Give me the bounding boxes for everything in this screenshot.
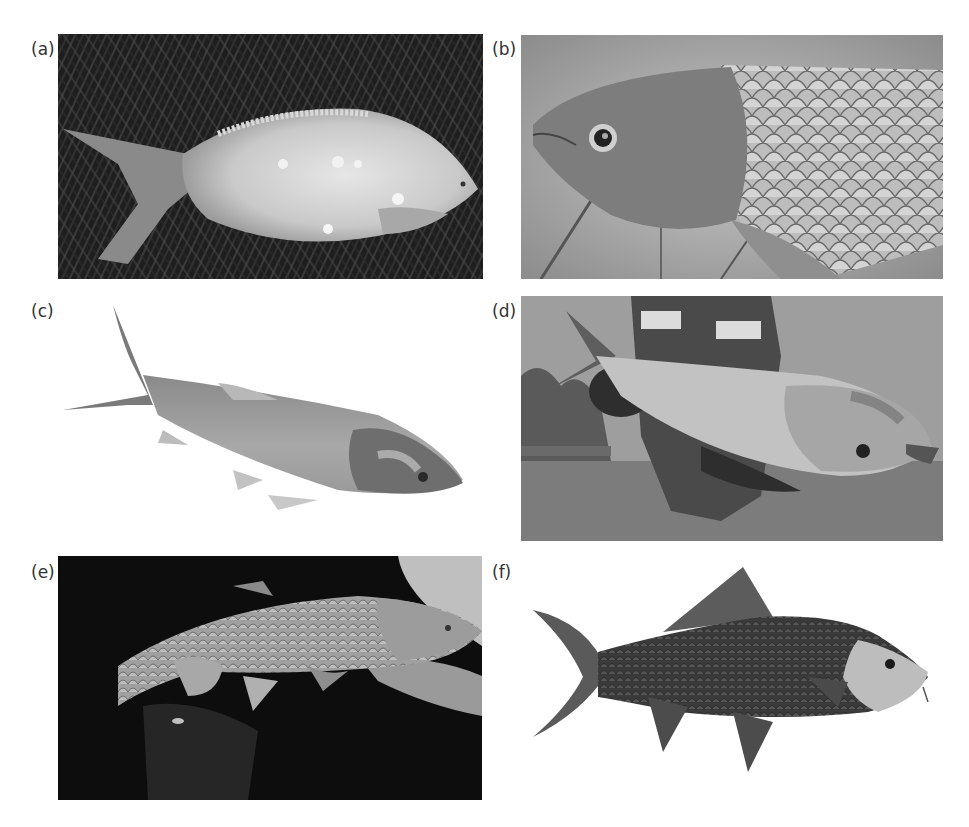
panel-c-image <box>58 305 468 510</box>
panel-e-image <box>58 556 482 800</box>
panel-f-image <box>528 562 940 787</box>
panel-a-image <box>58 34 483 279</box>
panel-b-image <box>521 35 943 279</box>
panel-label-c: (c) <box>31 303 54 320</box>
panel-label-e: (e) <box>31 564 55 581</box>
panel-label-a: (a) <box>31 41 55 58</box>
panel-label-d: (d) <box>492 303 516 320</box>
bighead-carp-held-illustration <box>521 296 943 541</box>
fish-on-grass-illustration <box>58 34 483 279</box>
panel-d-image <box>521 296 943 541</box>
fish-held-in-hands-illustration <box>58 556 482 800</box>
grass-carp-closeup-illustration <box>521 35 943 279</box>
panel-label-b: (b) <box>492 41 516 58</box>
panel-label-f: (f) <box>492 564 511 581</box>
silver-carp-illustration <box>58 305 468 510</box>
barbel-fish-illustration <box>528 562 940 787</box>
